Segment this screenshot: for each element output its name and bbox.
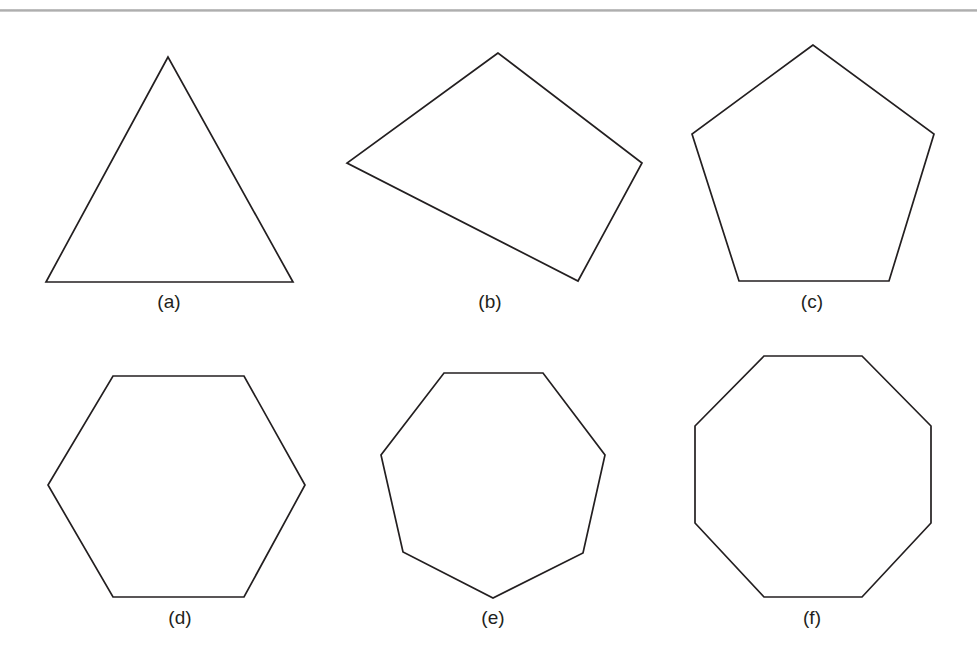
polygon-figure-canvas: [0, 0, 977, 662]
caption-f: (f): [803, 608, 821, 627]
caption-e: (e): [481, 608, 505, 627]
triangle-shape: [46, 57, 293, 282]
caption-b: (b): [478, 292, 502, 311]
octagon-shape: [695, 356, 931, 597]
caption-d: (d): [168, 608, 192, 627]
caption-c: (c): [801, 292, 823, 311]
heptagon-shape: [381, 373, 605, 598]
hexagon-shape: [48, 376, 305, 597]
quadrilateral-shape: [347, 53, 642, 281]
caption-a: (a): [157, 292, 181, 311]
pentagon-shape: [692, 45, 934, 281]
figure-page: (a) (b) (c) (d) (e) (f): [0, 0, 977, 662]
